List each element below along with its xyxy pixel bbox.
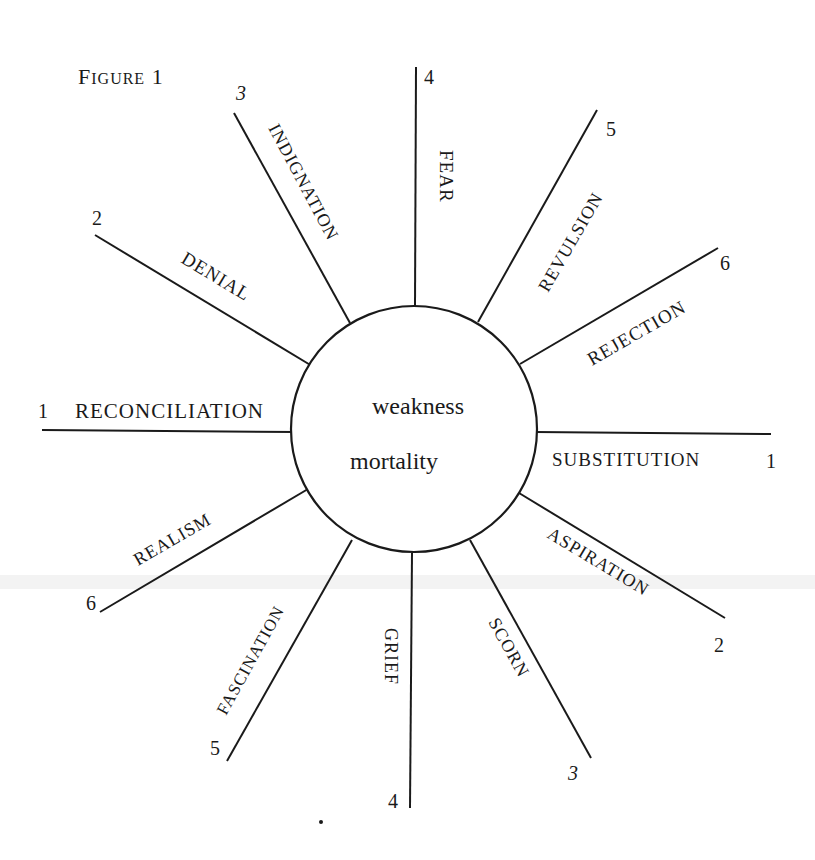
label-revulsion: Revulsion: [534, 189, 607, 295]
center-circle: [291, 306, 537, 552]
scan-artifact: [0, 575, 815, 589]
label-substitution: Substitution: [552, 449, 700, 470]
center-text-weakness: weakness: [372, 393, 464, 419]
number-scorn: 3: [567, 762, 578, 784]
number-fascination: 5: [210, 737, 220, 759]
number-denial: 2: [92, 207, 102, 229]
label-reconciliation: Reconciliation: [75, 399, 264, 423]
ray-aspiration: [519, 493, 725, 618]
number-grief: 4: [388, 790, 398, 812]
number-revulsion: 5: [606, 118, 616, 140]
number-rejection: 6: [720, 252, 730, 274]
ray-substitution: [535, 432, 771, 434]
number-substitution: 1: [766, 450, 776, 472]
number-realism: 6: [86, 592, 96, 614]
label-fear: Fear: [436, 150, 457, 203]
number-fear: 4: [424, 66, 434, 88]
label-fascination: Fascination: [213, 603, 288, 718]
figure-1-diagram: FIGURE 1 weakness mortality 1 2 3 4 5 6 …: [0, 0, 815, 860]
number-reconciliation: 1: [38, 400, 48, 422]
ray-scorn: [470, 540, 591, 758]
label-realism: Realism: [130, 509, 214, 569]
number-aspiration: 2: [714, 634, 724, 656]
center-text-mortality: mortality: [350, 448, 438, 474]
ray-reconciliation: [42, 430, 296, 432]
label-indignation: Indignation: [264, 120, 342, 243]
ray-fear: [415, 67, 416, 306]
figure-title: FIGURE 1: [78, 64, 164, 89]
stray-dot: [319, 820, 323, 824]
ray-denial: [95, 235, 312, 366]
label-grief: Grief: [381, 628, 401, 685]
ray-grief: [410, 553, 412, 808]
number-indignation: 3: [235, 82, 246, 104]
label-scorn: Scorn: [485, 614, 534, 681]
label-rejection: Rejection: [584, 296, 690, 369]
label-denial: Denial: [178, 247, 255, 305]
